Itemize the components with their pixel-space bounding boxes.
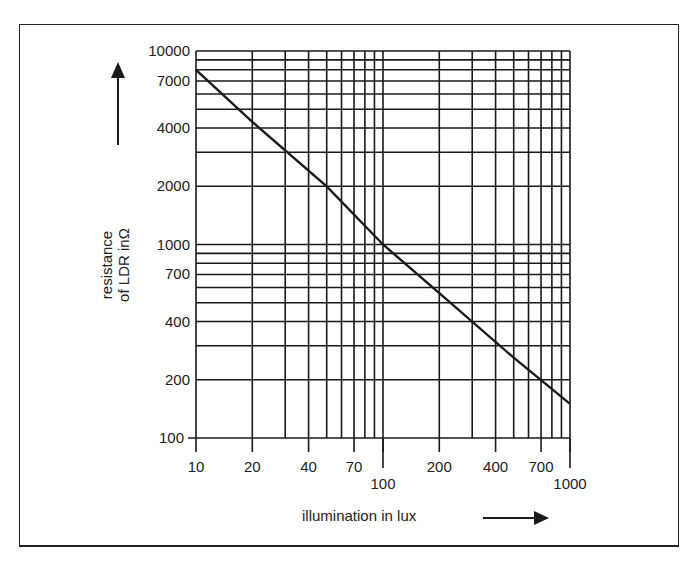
y-axis-tick-labels: 100007000400020001000700400200100 [148, 42, 190, 446]
y-axis-title-line2: of LDR inΩ [115, 228, 132, 302]
x-tick-label: 20 [244, 458, 261, 475]
x-tick-label: 200 [427, 458, 452, 475]
x-axis-title: illumination in lux [302, 507, 417, 524]
y-tick-label: 2000 [157, 177, 190, 194]
ldr-resistance-chart: 102040701002004007001000 100007000400020… [0, 0, 695, 561]
x-gridlines [196, 51, 570, 468]
y-tick-label: 200 [165, 371, 190, 388]
y-tick-label: 700 [165, 265, 190, 282]
x-axis-tick-labels: 102040701002004007001000 [188, 458, 587, 492]
y-tick-label: 4000 [157, 119, 190, 136]
y-tick-label: 400 [165, 313, 190, 330]
x-tick-label: 100 [370, 475, 395, 492]
arrow-up-icon [111, 62, 125, 145]
y-tick-label: 10000 [148, 42, 190, 59]
x-tick-label: 40 [300, 458, 317, 475]
y-gridlines [188, 51, 570, 438]
x-tick-label: 10 [188, 458, 205, 475]
y-axis-title: resistance of LDR inΩ [98, 228, 132, 302]
y-tick-label: 100 [159, 429, 184, 446]
y-axis-title-line1: resistance [98, 231, 115, 299]
x-tick-label: 70 [346, 458, 363, 475]
y-tick-label: 1000 [157, 236, 190, 253]
arrow-right-icon [483, 511, 549, 525]
y-tick-label: 7000 [157, 72, 190, 89]
x-tick-label: 1000 [553, 475, 586, 492]
x-tick-label: 400 [483, 458, 508, 475]
x-tick-label: 700 [529, 458, 554, 475]
